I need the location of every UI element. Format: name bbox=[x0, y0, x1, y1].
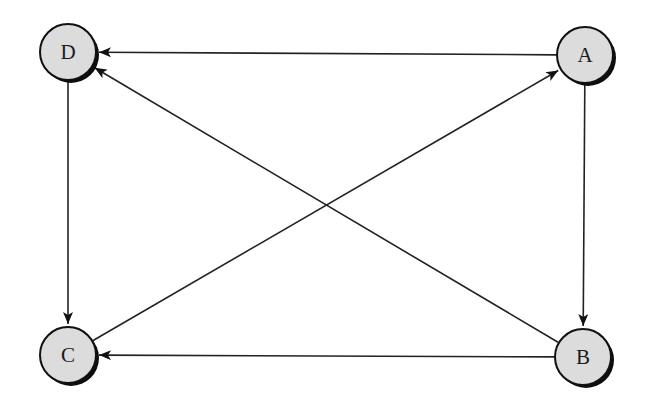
node-label: C bbox=[61, 343, 75, 367]
edge-a-to-b bbox=[583, 84, 585, 326]
node-d: D bbox=[40, 24, 99, 83]
node-label: B bbox=[576, 345, 590, 369]
node-a: A bbox=[557, 27, 616, 86]
edge-a-to-d bbox=[99, 52, 556, 55]
node-label: D bbox=[60, 40, 75, 64]
node-label: A bbox=[577, 43, 593, 67]
edge-b-to-c bbox=[99, 355, 554, 357]
node-c: C bbox=[40, 327, 99, 386]
edges-layer bbox=[68, 52, 585, 357]
directed-graph: DACB bbox=[0, 0, 653, 419]
node-b: B bbox=[555, 329, 614, 388]
edge-c-to-a bbox=[93, 71, 558, 341]
